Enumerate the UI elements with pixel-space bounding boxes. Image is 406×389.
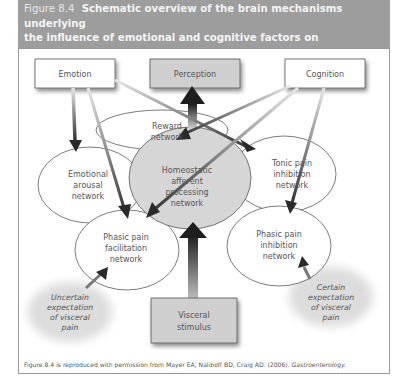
certain-label-3: of visceral xyxy=(311,303,352,312)
visceral-label-2: stimulus xyxy=(177,323,211,332)
brain-mechanisms-diagram: Emotion Perception Cognition Reward netw… xyxy=(0,0,406,389)
reward-label-1: Reward xyxy=(152,122,182,131)
cognition-label: Cognition xyxy=(306,70,344,79)
tonic-label-1: Tonic pain xyxy=(271,159,312,168)
uncertain-label-2: expectation xyxy=(47,303,93,312)
phasic-inhibition-label-3: network xyxy=(263,252,296,261)
visceral-to-homeostatic-arrow xyxy=(179,222,207,300)
uncertain-expectation-cloud xyxy=(28,282,112,342)
visceral-stimulus-box xyxy=(151,298,237,343)
journal-name: Gastroenterology. xyxy=(292,361,347,368)
certain-label-4: pain xyxy=(322,313,340,322)
homeostatic-label-3: processing xyxy=(165,188,208,197)
arousal-label-1: Emotional xyxy=(68,170,108,179)
phasic-inhibition-label-2: inhibition xyxy=(260,241,297,250)
visceral-label-1: Visceral xyxy=(178,311,209,320)
figure-caption: Figure 8.4 is reproduced with permission… xyxy=(24,361,384,368)
homeostatic-label-2: afferent xyxy=(171,177,203,186)
emotion-label: Emotion xyxy=(58,70,91,79)
arousal-label-3: network xyxy=(72,192,105,201)
facilitation-label-2: facilitation xyxy=(105,244,147,253)
tonic-label-2: inhibition xyxy=(273,170,310,179)
perception-label: Perception xyxy=(174,70,216,79)
certain-label-2: expectation xyxy=(308,293,354,302)
uncertain-label-4: pain xyxy=(61,323,79,332)
homeostatic-label-4: network xyxy=(171,199,204,208)
certain-label-1: Certain xyxy=(317,283,345,292)
uncertain-label-1: Uncertain xyxy=(51,293,89,302)
reward-label-2: network xyxy=(151,133,184,142)
emotion-to-arousal-arrow xyxy=(69,88,82,152)
phasic-inhibition-label-1: Phasic pain xyxy=(256,230,301,239)
uncertain-label-3: of visceral xyxy=(50,313,91,322)
tonic-label-3: network xyxy=(276,181,309,190)
homeostatic-label-1: Homeostatic xyxy=(162,166,212,175)
facilitation-label-3: network xyxy=(110,255,143,264)
facilitation-label-1: Phasic pain xyxy=(103,233,148,242)
arousal-label-2: arousal xyxy=(73,181,102,190)
